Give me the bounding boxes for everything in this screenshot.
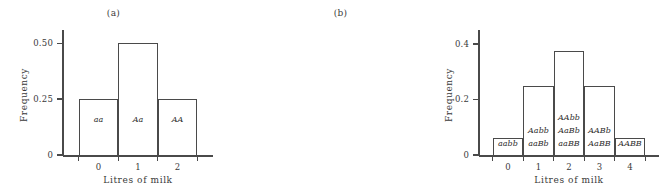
chart-panel-a: (a) Frequency Litres of milk 0 0.25 0.50… [0, 0, 227, 194]
panel-b-x-axis-title: Litres of milk [479, 175, 659, 185]
panel-a-x-tick-label-0: 0 [85, 162, 113, 172]
panel-a-y-tick-label-0: 0 [19, 150, 53, 160]
panel-a-bar-2-genotype-label: AA [157, 115, 197, 124]
panel-a-y-tick-label-1: 0.25 [19, 94, 53, 104]
panel-b-title: (b) [227, 8, 454, 18]
panel-b-x-tick-label-4: 4 [616, 162, 644, 172]
panel-a-x-tick-label-1: 1 [124, 162, 152, 172]
panel-a-x-tick-mark-0 [78, 156, 79, 161]
panel-b-x-tick-mark-4 [614, 156, 615, 161]
panel-a-bar-0-genotype-label: aa [79, 115, 119, 124]
panel-b-y-tick-1 [473, 99, 479, 100]
panel-b-bar-2-genotype-label-0: AAbb [548, 113, 590, 122]
panel-a-bar-1-genotype-label: Aa [118, 115, 158, 124]
panel-b-bar-3-genotype-label-0: AABb [579, 126, 621, 135]
panel-a-bar-1 [118, 43, 157, 156]
panel-b-x-tick-mark-2 [553, 156, 554, 161]
panel-b-x-tick-mark-1 [523, 156, 524, 161]
panel-a-bar-2 [158, 99, 197, 156]
panel-a-x-tick-mark-1 [118, 156, 119, 161]
panel-b-y-axis-line [478, 30, 480, 156]
panel-a-y-axis-line [62, 30, 64, 156]
panel-b-x-tick-mark-0 [492, 156, 493, 161]
panel-b-y-tick-label-2: 0.4 [435, 39, 469, 49]
panel-b-x-tick-label-2: 2 [555, 162, 583, 172]
panel-b-x-tick-label-1: 1 [524, 162, 552, 172]
panel-b-x-tick-mark-3 [584, 156, 585, 161]
panel-b-bar-4-genotype-label-0: AABB [609, 139, 651, 148]
panel-a-x-tick-mark-2 [157, 156, 158, 161]
panel-b-x-tick-mark-5 [645, 156, 646, 161]
chart-panel-b: (b) Frequency Litres of milk 0 0.2 0.4 a… [227, 0, 454, 194]
panel-a-y-tick-2 [57, 43, 63, 44]
panel-a-y-tick-1 [57, 98, 63, 99]
panel-a-x-tick-label-2: 2 [163, 162, 191, 172]
panel-b-x-tick-label-3: 3 [586, 162, 614, 172]
panel-b-y-tick-2 [473, 43, 479, 44]
panel-a-y-tick-label-2: 0.50 [19, 38, 53, 48]
panel-a-bar-0 [79, 99, 118, 156]
panel-a-y-tick-0 [57, 154, 63, 155]
panel-b-x-tick-label-0: 0 [494, 162, 522, 172]
panel-a-x-tick-mark-3 [197, 156, 198, 161]
panel-a-title: (a) [0, 8, 227, 18]
panel-b-y-tick-0 [473, 154, 479, 155]
panel-a-x-axis-title: Litres of milk [63, 175, 213, 185]
panel-b-y-tick-label-0: 0 [435, 150, 469, 160]
panel-b-y-tick-label-1: 0.2 [435, 94, 469, 104]
